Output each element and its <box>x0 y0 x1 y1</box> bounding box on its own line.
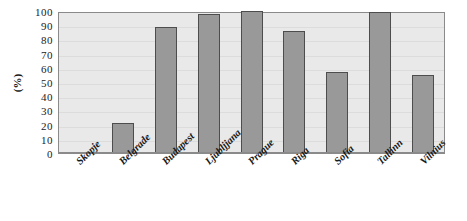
bar-slot <box>273 13 316 153</box>
y-axis-tick-label: 0 <box>47 149 53 160</box>
y-axis-title: (%) <box>8 60 26 106</box>
y-axis-tick-label: 100 <box>35 7 53 18</box>
bar-series <box>59 13 444 153</box>
y-axis-tick-label: 60 <box>41 63 53 74</box>
bar-slot <box>102 13 145 153</box>
bar-chart: (%) 1009080706050403020100 SkopjeBelgrad… <box>0 0 467 221</box>
bar-slot <box>59 13 102 153</box>
bar <box>326 72 348 153</box>
bar <box>412 75 434 153</box>
y-axis-tick-label: 40 <box>41 92 53 103</box>
plot-area <box>58 12 445 154</box>
bar <box>241 11 263 153</box>
y-axis-tick-label: 70 <box>41 49 53 60</box>
y-axis-tick-label: 90 <box>41 21 53 32</box>
y-axis-tick-label: 80 <box>41 35 53 46</box>
y-axis-tick-label: 10 <box>41 134 53 145</box>
y-axis-tick-label: 30 <box>41 106 53 117</box>
bar-slot <box>401 13 444 153</box>
bar-slot <box>145 13 188 153</box>
bar <box>198 14 220 153</box>
y-axis-tick-label: 20 <box>41 120 53 131</box>
y-axis-tick-label: 50 <box>41 78 53 89</box>
y-axis-tick-labels: 1009080706050403020100 <box>28 12 56 154</box>
bar <box>283 31 305 153</box>
x-axis-tick-labels: SkopjeBelgradeBudapestLjubljjanaPragueRi… <box>58 155 445 219</box>
bar <box>369 12 391 153</box>
bar-slot <box>316 13 359 153</box>
y-axis-title-text: (%) <box>11 74 23 92</box>
bar <box>155 27 177 153</box>
bar-slot <box>187 13 230 153</box>
bar-slot <box>358 13 401 153</box>
